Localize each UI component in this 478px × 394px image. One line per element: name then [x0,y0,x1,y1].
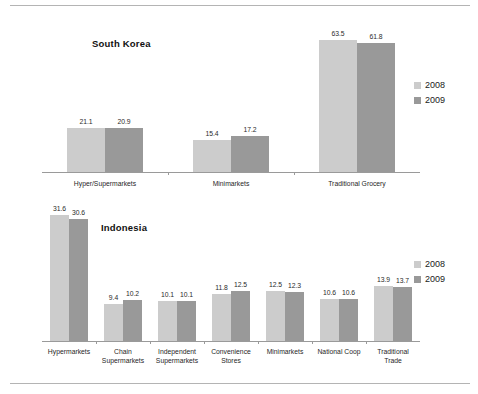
legend-label-2008: 2008 [425,259,445,269]
legend-item-2009[interactable]: 2009 [414,274,445,284]
bar-2009-0 [69,219,88,341]
bar-2009-2 [357,43,395,172]
bar-2008-1 [104,304,123,341]
bottom-divider-rule [10,383,470,384]
chart-indonesia: Indonesia 31.630.69.410.210.110.111.812.… [0,196,478,376]
bar-2009-2 [177,301,196,341]
x-axis-line-indonesia [42,341,420,342]
x-axis-category-label: Convenience Stores [200,348,262,365]
legend-label-2009: 2009 [425,95,445,105]
x-axis-category-label: Hyper/Supermarkets [38,180,172,189]
chart-south-korea: South Korea 21.120.915.417.263.561.8 200… [0,18,478,193]
x-axis-tick [312,341,313,344]
bar-value-label: 13.7 [389,277,416,285]
plot-area-indonesia: 31.630.69.410.210.110.111.812.512.512.31… [0,196,478,341]
bar-2009-3 [231,291,250,341]
legend-swatch-2008-icon [414,82,421,89]
x-axis-category-label: National Coop [308,348,370,357]
bar-value-label: 10.1 [173,291,200,299]
legend-indonesia: 2008 2009 [414,259,445,289]
bar-2009-1 [231,136,269,172]
bar-2008-6 [374,286,393,341]
x-axis-tick [204,341,205,344]
x-axis-tick [294,172,295,175]
bar-value-label: 61.8 [353,33,399,41]
bar-2008-2 [319,40,357,172]
bar-value-label: 10.2 [119,290,146,298]
legend-swatch-2009-icon [414,97,421,104]
x-axis-tick [168,172,169,175]
bar-value-label: 17.2 [227,126,273,134]
x-axis-line-south-korea [42,172,420,173]
legend-item-2008[interactable]: 2008 [414,80,445,90]
legend-south-korea: 2008 2009 [414,80,445,110]
x-axis-category-label: Minimarkets [254,348,316,357]
legend-swatch-2009-icon [414,276,421,283]
x-axis-category-label: Traditional Grocery [290,180,424,189]
x-axis-tick [258,341,259,344]
plot-area-south-korea: 21.120.915.417.263.561.8 [0,18,478,172]
bar-2008-1 [193,140,231,172]
x-axis-tick [150,341,151,344]
x-axis-category-label: Independent Supermarkets [146,348,208,365]
bar-2008-4 [266,291,285,341]
bar-2008-0 [67,128,105,172]
x-axis-category-label: Minimarkets [164,180,298,189]
x-axis-tick [96,341,97,344]
legend-swatch-2008-icon [414,261,421,268]
top-divider-rule [10,5,470,6]
x-axis-category-label: Traditional Trade [362,348,424,365]
legend-item-2009[interactable]: 2009 [414,95,445,105]
legend-item-2008[interactable]: 2008 [414,259,445,269]
legend-label-2008: 2008 [425,80,445,90]
bar-value-label: 12.5 [227,281,254,289]
bar-2009-5 [339,299,358,341]
x-axis-category-label: Hypermarkets [38,348,100,357]
bar-2008-0 [50,215,69,341]
bar-value-label: 12.3 [281,282,308,290]
bar-2009-0 [105,128,143,172]
bar-2009-4 [285,292,304,341]
bar-2008-2 [158,301,177,341]
bar-value-label: 20.9 [101,118,147,126]
bar-2009-1 [123,300,142,341]
bar-2008-3 [212,294,231,341]
bar-2009-6 [393,287,412,341]
bar-2008-5 [320,299,339,341]
bar-value-label: 30.6 [65,209,92,217]
legend-label-2009: 2009 [425,274,445,284]
x-axis-tick [366,341,367,344]
x-axis-category-label: Chain Supermarkets [92,348,154,365]
bar-value-label: 10.6 [335,289,362,297]
